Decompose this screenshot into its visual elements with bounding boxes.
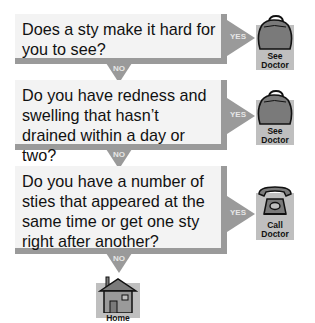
no-label-2: NO [106, 150, 132, 159]
doctor-bag-icon [254, 13, 294, 51]
home-label: Home [96, 314, 140, 323]
yes-label-1: YES [230, 32, 246, 41]
see-doctor-action-2: See Doctor [256, 100, 294, 145]
action-label-3: Call Doctor [256, 221, 294, 238]
yes-arrow-3: YES [227, 196, 257, 232]
telephone-icon [256, 184, 294, 218]
question-box-3: Do you have a number of sties that appea… [15, 166, 227, 254]
house-icon [98, 273, 138, 313]
action-label-1: See Doctor [256, 52, 294, 69]
call-doctor-action: Call Doctor [256, 193, 294, 240]
no-arrow-3: NO [106, 253, 132, 273]
yes-arrow-1: YES [227, 20, 257, 56]
yes-arrow-2: YES [227, 98, 257, 134]
question-box-1: Does a sty make it hard for you to see? [15, 14, 227, 64]
question-text-1: Does a sty make it hard for you to see? [22, 19, 217, 59]
home-action: Home [96, 283, 140, 318]
no-label-1: NO [106, 64, 132, 73]
question-text-3: Do you have a number of sties that appea… [22, 171, 217, 251]
see-doctor-action-1: See Doctor [256, 25, 294, 70]
doctor-bag-icon [254, 88, 294, 126]
no-label-3: NO [106, 254, 132, 263]
question-box-2: Do you have redness and swelling that ha… [15, 80, 227, 150]
action-label-2: See Doctor [256, 127, 294, 144]
yes-label-3: YES [230, 208, 246, 217]
yes-label-2: YES [230, 110, 246, 119]
